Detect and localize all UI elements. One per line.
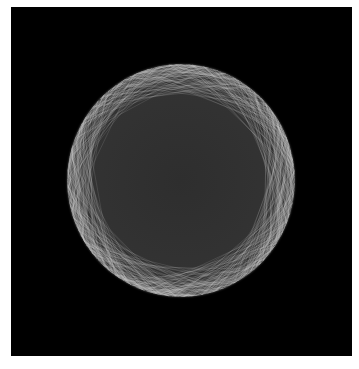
figure-caption [0,362,359,369]
image-frame [11,7,352,356]
wireframe-sphere [67,64,295,297]
sphere-lines [67,64,295,297]
